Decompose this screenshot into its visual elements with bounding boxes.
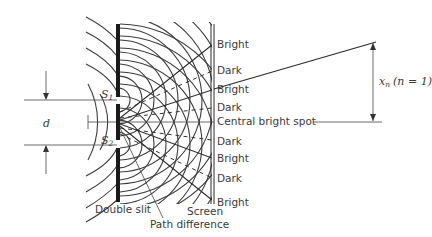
screen-label: Screen: [187, 205, 223, 217]
fringe-distance-dimension: xn(n = 1): [370, 43, 432, 121]
double-slit-diagram: d S1 S2 Bright Dark Bright Dark Central …: [0, 0, 432, 237]
central-bright-spot-label: Central bright spot: [217, 115, 316, 127]
fringe-bright-2: Bright: [217, 83, 249, 95]
fringe-dark-2: Dark: [217, 101, 243, 113]
screen: [211, 24, 214, 204]
fringe-dark-4: Dark: [217, 172, 243, 184]
d-label: d: [43, 117, 50, 130]
double-slit-barrier: [116, 24, 120, 202]
double-slit-label: Double slit: [95, 203, 151, 215]
incident-wavefronts: [86, 17, 117, 222]
s2-label: S2: [101, 134, 114, 148]
fringe-dark-1: Dark: [217, 64, 243, 76]
fringe-dark-3: Dark: [217, 135, 243, 147]
xn-label: xn(n = 1): [379, 75, 432, 89]
slit-separation-dimension: d: [24, 71, 117, 174]
fringe-bright-3: Bright: [217, 152, 249, 164]
fringe-bright-1: Bright: [217, 38, 249, 50]
path-difference-label: Path difference: [150, 218, 229, 230]
s1-label: S1: [101, 88, 113, 102]
